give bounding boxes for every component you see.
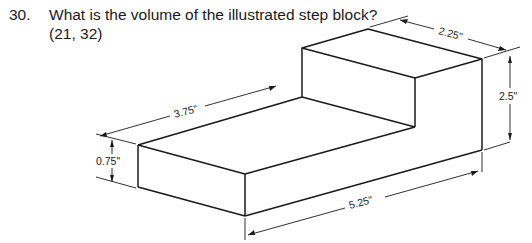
- dim-base-height: 0.75": [96, 155, 120, 167]
- step-block-figure: 2.25" 2.5" 3.75" 0.75" 5.25": [0, 0, 532, 243]
- dim-top-depth: 2.25": [437, 24, 464, 42]
- dim-step-length: 3.75": [172, 102, 199, 120]
- block-outline: [138, 29, 482, 216]
- dim-tall-height: 2.5": [499, 90, 518, 102]
- dim-total-length: 5.25": [347, 193, 374, 211]
